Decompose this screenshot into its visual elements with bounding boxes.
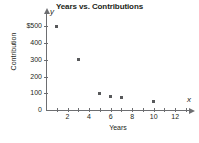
y-tick-label: 200 — [12, 73, 42, 80]
x-tick-mark — [132, 108, 133, 112]
x-tick-mark — [121, 108, 122, 112]
x-tick-label: 4 — [79, 113, 99, 120]
x-tick-mark — [100, 108, 101, 112]
scatter-chart: Years vs. Contributions y x 24681012 010… — [0, 0, 199, 143]
x-tick-mark — [57, 108, 58, 112]
y-axis-letter: y — [50, 7, 54, 16]
x-tick-mark — [143, 108, 144, 112]
data-point — [152, 100, 155, 103]
x-tick-label: 8 — [122, 113, 142, 120]
x-tick-mark — [89, 108, 90, 112]
y-tick-label: 400 — [12, 39, 42, 46]
y-tick-label: 100 — [12, 89, 42, 96]
x-tick-label: 2 — [58, 113, 78, 120]
data-point — [98, 92, 101, 95]
y-tick-mark — [44, 60, 48, 61]
x-tick-mark — [164, 108, 165, 112]
y-tick-mark — [44, 26, 48, 27]
x-tick-mark — [154, 108, 155, 112]
x-tick-mark — [111, 108, 112, 112]
x-tick-mark — [68, 108, 69, 112]
chart-title: Years vs. Contributions — [0, 2, 199, 11]
y-tick-label: 0 — [12, 106, 42, 113]
y-axis-line — [46, 14, 47, 110]
y-tick-mark — [44, 77, 48, 78]
x-axis-arrow-icon — [189, 108, 195, 114]
x-tick-label: 6 — [101, 113, 121, 120]
data-point — [120, 96, 123, 99]
x-tick-label: 10 — [144, 113, 164, 120]
y-axis-arrow-icon — [44, 8, 50, 14]
data-point — [109, 95, 112, 98]
data-point — [55, 25, 58, 28]
x-tick-mark — [175, 108, 176, 112]
y-axis-title: Contribution — [10, 17, 17, 87]
x-tick-mark — [186, 108, 187, 112]
y-tick-label: 300 — [12, 56, 42, 63]
y-tick-mark — [44, 43, 48, 44]
y-tick-label: $500 — [12, 22, 42, 29]
x-tick-mark — [78, 108, 79, 112]
x-axis-title: Years — [46, 124, 190, 131]
x-tick-label: 12 — [165, 113, 185, 120]
data-point — [77, 58, 80, 61]
y-tick-mark — [44, 93, 48, 94]
x-axis-letter: x — [187, 95, 191, 104]
